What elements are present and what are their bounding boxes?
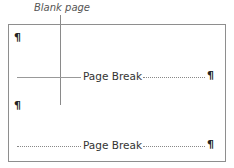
page-break-row: Page Break ¶ bbox=[17, 71, 217, 83]
paragraph-mark-icon: ¶ bbox=[207, 70, 214, 81]
page-break-line-left bbox=[17, 146, 81, 147]
paragraph-mark-icon: ¶ bbox=[14, 100, 21, 111]
page-break-line-right bbox=[143, 77, 205, 78]
page-break-row: Page Break ¶ bbox=[17, 140, 217, 152]
blank-page-callout: Blank page bbox=[27, 2, 97, 13]
page-break-line-right bbox=[143, 146, 205, 147]
paragraph-mark-icon: ¶ bbox=[14, 32, 21, 43]
page-break-label: Page Break bbox=[83, 70, 142, 82]
page-break-label: Page Break bbox=[83, 139, 142, 151]
paragraph-mark-icon: ¶ bbox=[207, 139, 214, 150]
page-break-line-left bbox=[17, 77, 81, 78]
